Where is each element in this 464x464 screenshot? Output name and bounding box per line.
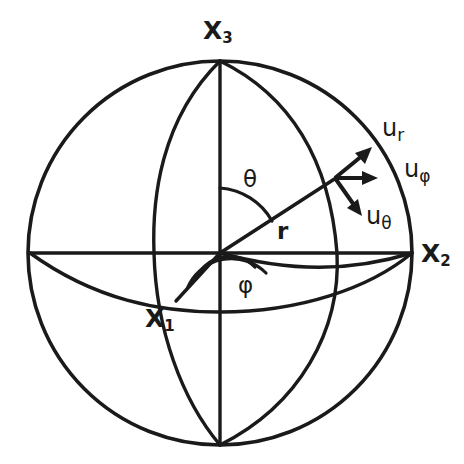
unit-vector-label-utheta-subscript: θ	[381, 213, 391, 233]
spherical-coordinate-diagram: X3 X2 X1 θ φ r ur uφ uθ	[0, 0, 464, 464]
radius-label-r: r	[277, 220, 288, 243]
angle-label-phi: φ	[238, 274, 253, 297]
unit-vector-utheta	[335, 178, 362, 216]
axis-label-x3-base: X	[203, 16, 222, 45]
axis-label-x2: X2	[421, 241, 451, 269]
axis-label-x3-subscript: 3	[222, 29, 232, 47]
sphere-drawing	[0, 0, 464, 464]
unit-vector-label-uphi: uφ	[404, 157, 430, 185]
axis-label-x1-base: X	[145, 304, 164, 333]
unit-vector-label-ur: ur	[382, 116, 404, 144]
axis-label-x1: X1	[145, 306, 175, 334]
axis-label-x1-subscript: 1	[164, 317, 174, 335]
unit-vector-label-utheta: uθ	[366, 204, 392, 232]
axis-label-x2-base: X	[421, 239, 440, 268]
angle-arc-theta	[220, 188, 272, 221]
axis-label-x2-subscript: 2	[440, 252, 450, 270]
unit-vector-label-ur-subscript: r	[397, 125, 404, 145]
unit-vector-label-ur-base: u	[382, 114, 397, 142]
unit-vector-label-utheta-base: u	[366, 202, 381, 230]
axis-label-x3: X3	[203, 18, 233, 46]
unit-vector-label-uphi-base: u	[404, 155, 419, 183]
unit-vector-label-uphi-subscript: φ	[419, 166, 430, 186]
angle-label-theta: θ	[243, 168, 257, 191]
